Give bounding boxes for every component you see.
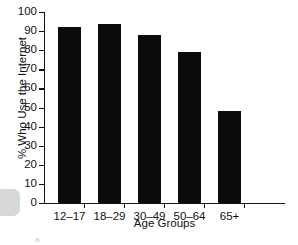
y-tick-label-0: 0 <box>31 197 37 209</box>
x-tick-1 <box>84 204 85 208</box>
bar-chart-figure: 0 10 20 30 40 50 60 70 80 90 100 12–17 1… <box>0 0 298 245</box>
y-tick-10 <box>39 184 44 185</box>
y-tick-50 <box>39 108 44 109</box>
bar-12-17 <box>58 27 81 203</box>
y-axis-title: % Who Use the Internet <box>16 14 28 182</box>
bar-30-49 <box>138 35 161 203</box>
clipped-caption: A... <box>34 238 274 242</box>
x-tick-3 <box>164 204 165 208</box>
y-tick-70 <box>39 69 44 70</box>
x-tick-4 <box>204 204 205 208</box>
x-tick-5 <box>244 204 245 208</box>
y-axis-line <box>44 12 45 203</box>
y-tick-0 <box>39 203 44 204</box>
bar-18-29 <box>98 24 121 204</box>
x-tick-2 <box>124 204 125 208</box>
y-tick-60 <box>39 88 44 89</box>
y-tick-100 <box>39 12 44 13</box>
page-edge-artifact <box>0 189 20 216</box>
clipped-caption-text: A... <box>34 238 274 242</box>
plot-area: 0 10 20 30 40 50 60 70 80 90 100 12–17 1… <box>44 12 285 203</box>
y-tick-40 <box>39 127 44 128</box>
bar-50-64 <box>178 52 201 203</box>
y-tick-30 <box>39 146 44 147</box>
y-tick-90 <box>39 31 44 32</box>
y-tick-20 <box>39 165 44 166</box>
bar-65plus <box>218 111 241 203</box>
x-axis-title: Age Groups <box>44 217 285 229</box>
y-tick-80 <box>39 50 44 51</box>
